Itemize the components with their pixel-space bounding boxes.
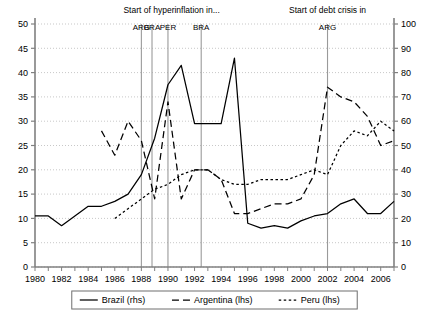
y-tick-label-left: 10 xyxy=(18,214,28,224)
y-tick-label-right: 60 xyxy=(401,116,411,126)
y-tick-label-right: 80 xyxy=(401,68,411,78)
x-tick-label: 2000 xyxy=(291,274,311,284)
y-tick-label-right: 10 xyxy=(401,238,411,248)
x-tick-label: 1984 xyxy=(78,274,98,284)
legend-label-brazil: Brazil (rhs) xyxy=(102,295,146,305)
annotation-label-arg-debt-crisis: ARG xyxy=(319,23,336,32)
x-tick-label: 1994 xyxy=(211,274,231,284)
x-tick-label: 1998 xyxy=(264,274,284,284)
legend-label-argentina: Argentina (lhs) xyxy=(194,295,253,305)
y-tick-label-left: 30 xyxy=(18,116,28,126)
x-tick-label: 1990 xyxy=(158,274,178,284)
y-tick-label-right: 30 xyxy=(401,189,411,199)
legend: Brazil (rhs)Argentina (lhs)Peru (lhs) xyxy=(72,291,357,309)
y-tick-label-left: 40 xyxy=(18,68,28,78)
y-tick-label-right: 100 xyxy=(401,19,416,29)
x-tick-label: 2006 xyxy=(371,274,391,284)
chart-container: 05101520253035404550 0102030405060708090… xyxy=(0,0,429,327)
y-tick-label-left: 50 xyxy=(18,19,28,29)
annotation-label-bra-hyperinflation: BRA xyxy=(193,23,210,32)
y-tick-label-right: 90 xyxy=(401,44,411,54)
y-tick-label-right: 70 xyxy=(401,92,411,102)
annotation-label-bra-hyperinflation: BRA xyxy=(144,23,161,32)
y-tick-label-left: 15 xyxy=(18,189,28,199)
x-tick-label: 1996 xyxy=(238,274,258,284)
y-tick-label-left: 0 xyxy=(23,262,28,272)
annotation-title-hyperinflation: Start of hyperinflation in... xyxy=(123,5,219,15)
x-tick-label: 2004 xyxy=(344,274,364,284)
line-chart: 05101520253035404550 0102030405060708090… xyxy=(0,0,429,327)
x-tick-label: 1980 xyxy=(25,274,45,284)
x-tick-label: 1992 xyxy=(185,274,205,284)
y-tick-label-left: 35 xyxy=(18,92,28,102)
y-tick-label-left: 20 xyxy=(18,165,28,175)
x-tick-label: 2002 xyxy=(318,274,338,284)
x-tick-label: 1986 xyxy=(105,274,125,284)
y-tick-label-right: 0 xyxy=(401,262,406,272)
y-tick-label-right: 40 xyxy=(401,165,411,175)
y-tick-label-left: 45 xyxy=(18,44,28,54)
legend-label-peru: Peru (lhs) xyxy=(301,295,340,305)
y-tick-label-left: 25 xyxy=(18,141,28,151)
annotation-title-debt-crisis: Start of debt crisis in xyxy=(289,5,366,15)
y-tick-label-right: 50 xyxy=(401,141,411,151)
y-tick-label-right: 20 xyxy=(401,214,411,224)
x-tick-label: 1982 xyxy=(52,274,72,284)
y-tick-label-left: 5 xyxy=(23,238,28,248)
annotation-label-per-hyperinflation: PER xyxy=(160,23,177,32)
x-tick-label: 1988 xyxy=(131,274,151,284)
